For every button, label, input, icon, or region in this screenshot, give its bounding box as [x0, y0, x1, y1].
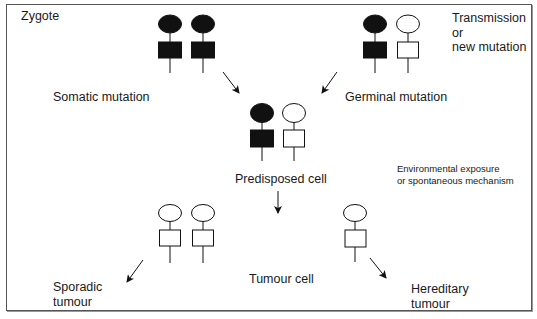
- allele-filled-icon: [364, 15, 387, 73]
- zygote-label: Zygote: [21, 9, 59, 24]
- arrow-germinal-to-predisposed: [322, 72, 337, 93]
- hereditary-tumour-label: Hereditary tumour: [411, 282, 469, 312]
- arrow-to-sporadic-tumour: [127, 260, 143, 282]
- allele-filled-icon: [251, 104, 274, 162]
- arrow-somatic-to-predisposed: [223, 72, 239, 93]
- hereditary-tumour-cell: [344, 205, 367, 263]
- allele-empty-icon: [283, 104, 306, 162]
- allele-empty-icon: [344, 205, 367, 263]
- zygote-germinal-pair: [364, 15, 420, 73]
- allele-filled-icon: [159, 15, 182, 73]
- zygote-somatic-pair: [159, 15, 215, 73]
- germinal-mutation-label: Germinal mutation: [345, 90, 447, 105]
- environmental-exposure-label: Environmental exposure or spontaneous me…: [397, 163, 514, 187]
- allele-filled-icon: [192, 15, 215, 73]
- allele-empty-icon: [159, 205, 182, 264]
- predisposed-cell-label: Predisposed cell: [235, 172, 327, 187]
- transmission-label: Transmission or new mutation: [452, 11, 526, 55]
- allele-empty-icon: [192, 205, 215, 264]
- tumour-cell-label: Tumour cell: [249, 272, 314, 287]
- predisposed-cell-pair: [251, 104, 306, 162]
- sporadic-tumour-cell-pair: [159, 205, 215, 264]
- somatic-mutation-label: Somatic mutation: [53, 90, 150, 105]
- arrow-to-hereditary-tumour: [370, 258, 386, 278]
- sporadic-tumour-label: Sporadic tumour: [53, 280, 102, 310]
- allele-empty-icon: [397, 15, 420, 73]
